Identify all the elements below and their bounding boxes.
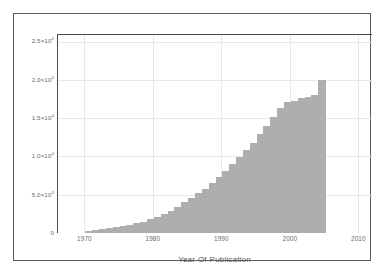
- x-tick-label: 1990: [214, 236, 229, 242]
- y-tick-label: 2.0×104: [32, 77, 54, 83]
- y-tick-label: 1.5×104: [32, 115, 54, 121]
- y-tick-label: 2.5×104: [32, 38, 54, 44]
- y-tick-mantissa: 5.0×10: [32, 191, 52, 198]
- x-axis-title: Year-Of-Publication: [57, 255, 372, 264]
- y-tick-exponent: 4: [51, 151, 54, 156]
- histogram-bar: [318, 80, 325, 233]
- x-tick-label: 2000: [283, 236, 298, 242]
- y-tick-mantissa: 1.5×10: [32, 114, 52, 121]
- x-axis-tick-labels: 19701980199020002010: [57, 236, 372, 248]
- y-tick-label: 5.0×103: [32, 192, 54, 198]
- y-tick-exponent: 3: [51, 189, 54, 194]
- x-tick-label: 1970: [77, 236, 92, 242]
- y-tick-mantissa: 2.5×10: [32, 37, 52, 44]
- y-tick-mantissa: 2.0×10: [32, 76, 52, 83]
- x-tick-label: 2010: [351, 236, 366, 242]
- y-tick-label: 1.0×104: [32, 153, 54, 159]
- figure-canvas: 05.0×1031.0×1041.5×1042.0×1042.5×104 197…: [0, 0, 388, 276]
- y-tick-exponent: 4: [51, 75, 54, 80]
- y-tick-exponent: 4: [51, 113, 54, 118]
- y-tick-exponent: 4: [51, 36, 54, 41]
- figure-border: 05.0×1031.0×1041.5×1042.0×1042.5×104 197…: [13, 13, 371, 261]
- y-tick-mantissa: 1.0×10: [32, 152, 52, 159]
- histogram-bars: [58, 34, 372, 233]
- plot-area: [57, 34, 372, 233]
- x-tick-label: 1980: [146, 236, 161, 242]
- y-tick-label: 0: [50, 230, 54, 236]
- y-axis-tick-labels: 05.0×1031.0×1041.5×1042.0×1042.5×104: [14, 34, 54, 233]
